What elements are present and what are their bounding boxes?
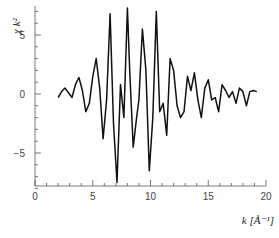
data-line bbox=[58, 8, 257, 183]
x-axis-label: k [Å⁻¹] bbox=[242, 214, 274, 226]
tick-label: 0 bbox=[19, 89, 25, 100]
y-axis-label: χ k² bbox=[10, 17, 22, 34]
tick-label: 10 bbox=[145, 191, 157, 202]
exafs-chart: 05101520−505 χ k² k [Å⁻¹] bbox=[0, 0, 279, 238]
tick-label: 5 bbox=[90, 191, 96, 202]
tick-label: 15 bbox=[203, 191, 215, 202]
tick-label: 20 bbox=[260, 191, 272, 202]
tick-label: 0 bbox=[32, 191, 38, 202]
tick-label: −5 bbox=[14, 148, 26, 159]
